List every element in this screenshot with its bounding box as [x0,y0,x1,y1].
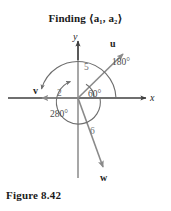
y-axis-label: y [73,31,77,42]
angle-label-60: 60° [88,89,101,99]
vector-label-w: w [100,172,107,183]
figure-container: Finding ⟨a₁, a₂⟩ [0,0,171,211]
figure-caption: Figure 8.42 [6,189,61,201]
vector-diagram [0,0,171,211]
vector-label-v: v [33,85,38,96]
magnitude-label-v: 2 [57,88,62,98]
angle-label-180: 180° [112,57,130,67]
angle-label-280: 280° [50,109,68,119]
magnitude-label-u: 5 [84,62,89,72]
vector-label-u: u [110,38,116,49]
x-axis-label: x [150,92,154,103]
magnitude-label-w: 6 [90,126,95,136]
